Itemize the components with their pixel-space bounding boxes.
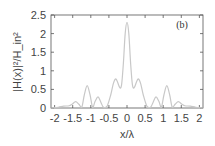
data-curve	[51, 22, 203, 108]
x-tick-label: 2	[196, 112, 202, 124]
x-tick-label: -1.5	[63, 112, 82, 124]
panel-label: (b)	[176, 19, 188, 31]
x-tick-label: -0.5	[99, 112, 118, 124]
y-tick-label: 1.5	[31, 46, 46, 58]
y-tick-label: 2.5	[31, 9, 46, 21]
x-tick-label: 1	[160, 112, 166, 124]
x-tick-label: 0	[124, 112, 130, 124]
y-tick-label: 0.5	[31, 83, 46, 95]
chart: 00.511.522.5 -2-1.5-1-0.500.511.52 (b) x…	[0, 0, 215, 146]
y-axis-label: |H(x)|²/H_in²	[11, 32, 23, 92]
y-tick-label: 2	[40, 28, 46, 40]
x-tick-label: 1.5	[174, 112, 189, 124]
x-tick-label: 0.5	[137, 112, 152, 124]
x-tick-label: -1	[86, 112, 96, 124]
x-tick-label: -2	[50, 112, 60, 124]
y-tick-label: 1	[40, 65, 46, 77]
x-axis-label: x/λ	[120, 128, 135, 140]
y-tick-label: 0	[40, 102, 46, 114]
